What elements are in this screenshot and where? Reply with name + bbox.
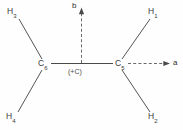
vector-b-label: b bbox=[72, 2, 76, 10]
vector-b-arrowhead bbox=[79, 8, 84, 15]
diagram-canvas bbox=[0, 0, 183, 130]
atom-subscript-h4: 4 bbox=[12, 118, 15, 124]
bond-c5-h1 bbox=[122, 19, 150, 59]
atom-subscript-h1: 1 bbox=[154, 13, 157, 19]
atom-label-h1: H1 bbox=[148, 7, 157, 18]
bond-c5-h2 bbox=[122, 70, 150, 112]
atom-subscript-c5: 5 bbox=[121, 65, 124, 71]
bond-c6-h4 bbox=[18, 70, 42, 112]
atom-subscript-h3: 3 bbox=[13, 13, 16, 19]
vector-a-label: a bbox=[173, 59, 177, 67]
center-charge-annotation: (+C) bbox=[68, 68, 82, 75]
atom-label-h3: H3 bbox=[7, 7, 16, 18]
atom-label-h4: H4 bbox=[6, 112, 15, 123]
atom-subscript-c6: 6 bbox=[44, 65, 47, 71]
bond-c6-h3 bbox=[19, 19, 42, 59]
atom-label-c6: C6 bbox=[38, 59, 47, 70]
atom-label-h2: H2 bbox=[148, 112, 157, 123]
molecular-structure-diagram: H3 H1 C6 C5 H4 H2 (+C) b a bbox=[0, 0, 183, 130]
vector-a-arrowhead bbox=[163, 61, 170, 66]
atom-label-c5: C5 bbox=[115, 59, 124, 70]
atom-subscript-h2: 2 bbox=[154, 118, 157, 124]
